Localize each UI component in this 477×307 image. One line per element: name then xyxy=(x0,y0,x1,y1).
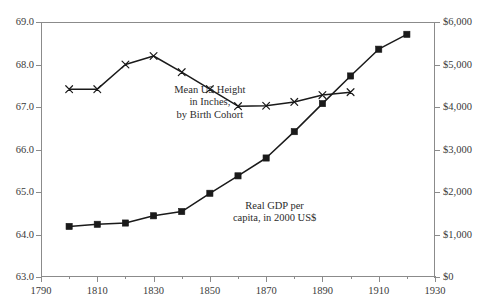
x-axis-tick-label: 1830 xyxy=(132,286,176,297)
data-point-marker xyxy=(319,101,325,107)
data-point-marker xyxy=(66,223,72,229)
data-point-marker xyxy=(207,190,213,196)
gdp-label: Real GDP percapita, in 2000 US$ xyxy=(233,200,316,226)
y-axis-right-tick-label: $1,000 xyxy=(443,230,477,241)
y-axis-left-tick-label: 69.0 xyxy=(0,17,34,28)
x-axis-tick-label: 1850 xyxy=(188,286,232,297)
y-axis-right-tick-label: $0 xyxy=(443,272,477,283)
y-axis-right-tick-label: $2,000 xyxy=(443,187,477,198)
data-point-marker xyxy=(404,31,410,37)
x-axis-tick-label: 1810 xyxy=(75,286,119,297)
data-point-marker xyxy=(291,129,297,135)
y-axis-left-tick-label: 67.0 xyxy=(0,102,34,113)
y-axis-right-tick-label: $6,000 xyxy=(443,17,477,28)
x-axis-tick-label: 1930 xyxy=(413,286,457,297)
data-point-marker xyxy=(179,208,185,214)
y-axis-right-tick-label: $5,000 xyxy=(443,60,477,71)
data-point-marker xyxy=(235,173,241,179)
x-axis-tick-label: 1870 xyxy=(244,286,288,297)
x-axis-tick-label: 1790 xyxy=(19,286,63,297)
data-point-marker xyxy=(178,69,185,76)
x-axis-tick xyxy=(435,276,436,282)
data-point-marker xyxy=(94,221,100,227)
x-axis-tick-label: 1890 xyxy=(300,286,344,297)
y-axis-left-tick-label: 65.0 xyxy=(0,187,34,198)
height-label: Mean US Heightin Inches,by Birth Cohort xyxy=(174,84,245,122)
data-point-marker xyxy=(347,73,353,79)
y-axis-right-tick-label: $3,000 xyxy=(443,145,477,156)
plot-area: Mean US Heightin Inches,by Birth CohortR… xyxy=(41,22,435,277)
data-point-marker xyxy=(376,46,382,52)
x-axis-tick-label: 1910 xyxy=(357,286,401,297)
y-axis-left-tick-label: 66.0 xyxy=(0,145,34,156)
data-point-marker xyxy=(263,155,269,161)
data-point-marker xyxy=(122,220,128,226)
series-plot xyxy=(41,22,435,277)
y-axis-right-tick-label: $4,000 xyxy=(443,102,477,113)
y-axis-left-tick-label: 63.0 xyxy=(0,272,34,283)
y-axis-left-tick-label: 68.0 xyxy=(0,60,34,71)
y-axis-left-tick-label: 64.0 xyxy=(0,230,34,241)
data-point-marker xyxy=(150,213,156,219)
